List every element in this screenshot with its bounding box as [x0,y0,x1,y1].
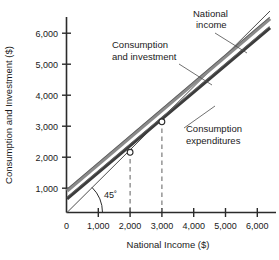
annotation-consumption-expenditures: Consumption expenditures [184,106,242,146]
annotation-consumption-expenditures-line2: expenditures [186,135,241,146]
angle-arc-45 [92,187,103,212]
y-axis-title: Consumption and Investment ($) [3,46,14,184]
series-line-consumption-and-investment [67,19,270,191]
marker-point-2000 [127,149,133,155]
y-tick-label-6000: 6,000 [35,29,58,39]
x-tick-label-0: 0 [64,221,69,231]
annotation-consumption-and-investment-line1: Consumption [112,39,168,50]
x-axis-title: National Income ($) [127,239,210,250]
marker-point-3000 [159,119,165,125]
y-tick-label-2000: 2,000 [35,153,58,163]
axis-lines [67,17,277,213]
annotation-consumption-and-investment-line2: and investment [112,51,177,62]
angle-label-45: 45˚ [104,190,117,200]
x-tick-label-2000: 2,000 [119,221,142,231]
y-tick-label-3000: 3,000 [35,122,58,132]
y-tick-label-4000: 4,000 [35,91,58,101]
x-tick-labels: 0 1,000 2,000 3,000 4,000 5,000 6,000 [64,221,269,231]
series-line-consumption-and-investment-edge [67,17,270,189]
chart-figure: 6,000 5,000 4,000 3,000 2,000 1,000 0 1,… [0,0,279,260]
y-tick-label-1000: 1,000 [35,184,58,194]
x-tick-label-5000: 5,000 [214,221,237,231]
economics-line-chart: 6,000 5,000 4,000 3,000 2,000 1,000 0 1,… [0,0,279,260]
y-tick-labels: 6,000 5,000 4,000 3,000 2,000 1,000 [35,29,58,194]
annotation-consumption-and-investment: Consumption and investment [112,39,212,85]
x-tick-label-6000: 6,000 [246,221,269,231]
annotation-national-income-line1: National [193,8,228,19]
y-tick-label-5000: 5,000 [35,60,58,70]
x-tick-label-3000: 3,000 [151,221,174,231]
x-tick-label-1000: 1,000 [87,221,110,231]
x-tick-label-4000: 4,000 [182,221,205,231]
annotation-consumption-expenditures-line1: Consumption [186,123,242,134]
annotation-national-income-line2: income [196,19,227,30]
angle-marker-group: 45˚ [92,187,117,212]
